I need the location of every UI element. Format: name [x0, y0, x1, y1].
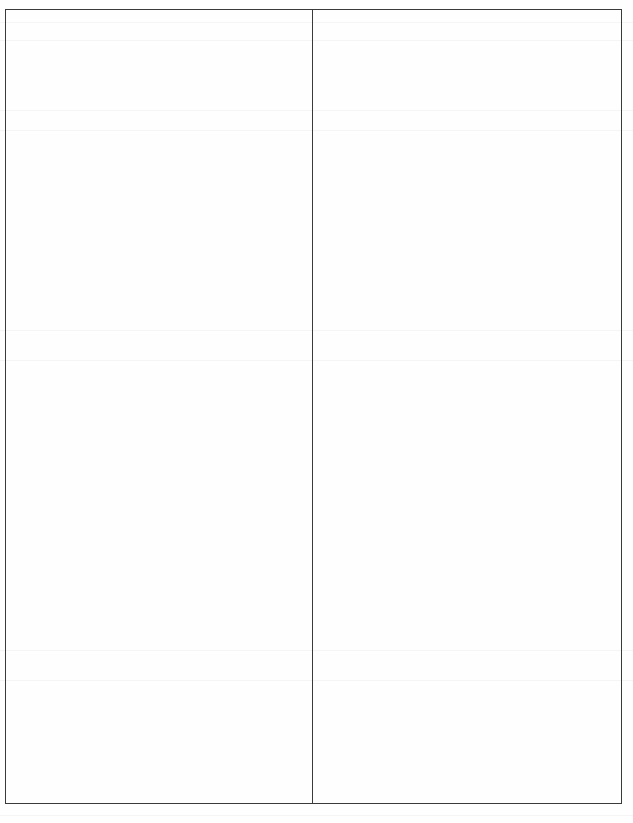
table-cell-right — [313, 10, 621, 803]
bleed-through-line — [0, 815, 633, 816]
table-cell-left — [6, 10, 313, 803]
document-page — [0, 0, 633, 823]
table-frame — [5, 9, 622, 804]
